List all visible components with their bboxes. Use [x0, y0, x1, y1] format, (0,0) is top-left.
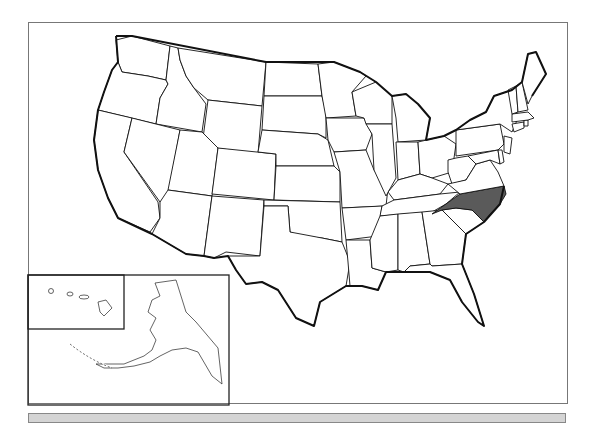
state-alaska[interactable]: [70, 280, 222, 384]
state-rhode-island[interactable]: [524, 120, 528, 126]
state-massachusetts[interactable]: [512, 112, 534, 122]
state-florida[interactable]: [404, 264, 484, 326]
hawaii-inset-box: [28, 275, 124, 329]
state-colorado[interactable]: [212, 148, 276, 200]
footer-bar: [28, 413, 566, 423]
state-new-mexico[interactable]: [204, 196, 264, 258]
state-kansas[interactable]: [274, 166, 340, 202]
state-new-jersey[interactable]: [504, 136, 512, 154]
state-indiana[interactable]: [396, 142, 420, 180]
state-michigan[interactable]: [392, 94, 430, 142]
state-north-dakota[interactable]: [264, 62, 322, 96]
state-iowa[interactable]: [326, 118, 372, 152]
state-hawaii[interactable]: [49, 289, 113, 317]
state-arizona[interactable]: [152, 190, 212, 256]
state-connecticut[interactable]: [512, 122, 524, 132]
